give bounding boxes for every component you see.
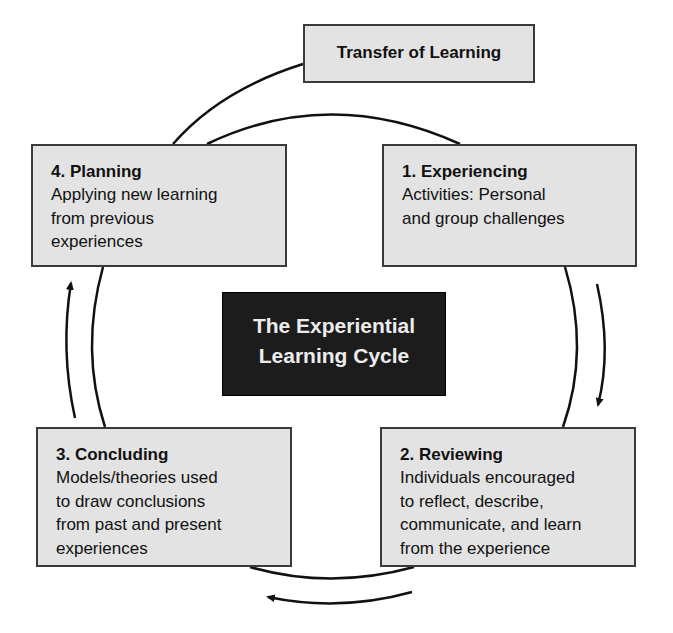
description-line: from previous [51, 207, 277, 231]
description-line: to reflect, describe, [400, 490, 626, 514]
arrow-down-right [597, 284, 605, 405]
cycle-arc-right [563, 267, 577, 427]
description-line: and group challenges [402, 207, 627, 231]
description-line: to draw conclusions [56, 490, 282, 514]
cycle-title: The Experiential Learning Cycle [223, 311, 445, 371]
cycle-arc-top [207, 115, 460, 145]
description-line: experiences [51, 230, 277, 254]
stage-title: 2. Reviewing [400, 443, 626, 466]
stage-box-experiencing: 1. Experiencing Activities: Personal and… [382, 144, 637, 267]
stage-title: 3. Concluding [56, 443, 282, 466]
stage-description: Individuals encouraged to reflect, descr… [400, 466, 626, 560]
cycle-arc-left [92, 267, 105, 427]
description-line: Activities: Personal [402, 183, 627, 207]
stage-title: 1. Experiencing [402, 160, 627, 183]
arrow-up-left [66, 283, 75, 418]
stage-description: Models/theories used to draw conclusions… [56, 466, 282, 560]
description-line: Individuals encouraged [400, 466, 626, 490]
cycle-title-box: The Experiential Learning Cycle [222, 292, 446, 396]
description-line: communicate, and learn [400, 513, 626, 537]
stage-title: 4. Planning [51, 160, 277, 183]
experiential-learning-cycle-diagram: Transfer of Learning 4. Planning Applyin… [0, 0, 673, 633]
stage-box-reviewing: 2. Reviewing Individuals encouraged to r… [380, 427, 636, 567]
cycle-arc-bottom [250, 567, 414, 579]
arrow-left-bottom [268, 592, 412, 603]
stage-box-planning: 4. Planning Applying new learning from p… [31, 144, 287, 267]
description-line: from past and present [56, 513, 282, 537]
cycle-title-line: The Experiential [223, 311, 445, 341]
description-line: Applying new learning [51, 183, 277, 207]
cycle-title-line: Learning Cycle [223, 341, 445, 371]
transfer-of-learning-box: Transfer of Learning [303, 24, 535, 83]
stage-box-concluding: 3. Concluding Models/theories used to dr… [36, 427, 292, 567]
transfer-of-learning-label: Transfer of Learning [305, 43, 533, 63]
stage-description: Applying new learning from previous expe… [51, 183, 277, 254]
description-line: experiences [56, 537, 282, 561]
description-line: from the experience [400, 537, 626, 561]
stage-description: Activities: Personal and group challenge… [402, 183, 627, 230]
description-line: Models/theories used [56, 466, 282, 490]
